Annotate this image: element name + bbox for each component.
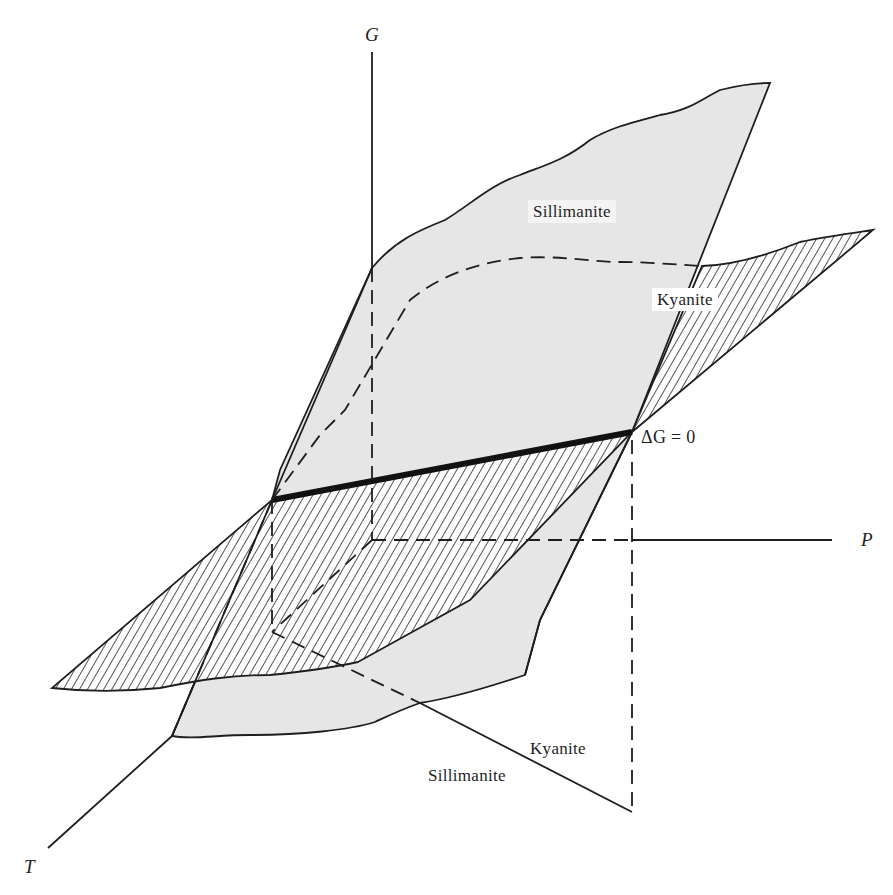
g-axis-label: G xyxy=(365,25,379,44)
equilibrium-label: ΔG = 0 xyxy=(641,428,696,446)
projection-sillimanite-label: Sillimanite xyxy=(428,767,506,784)
kyanite-surface-label: Kyanite xyxy=(652,288,718,311)
t-axis xyxy=(48,736,172,848)
t-axis-label: T xyxy=(24,857,35,876)
gibbs-energy-surface-diagram: G P T Sillimanite Kyanite ΔG = 0 Kyanite… xyxy=(0,0,893,895)
diagram-canvas xyxy=(0,0,893,895)
p-axis-label: P xyxy=(861,530,873,549)
projected-boundary-line xyxy=(420,703,632,812)
sillimanite-surface-label: Sillimanite xyxy=(528,200,616,223)
projection-kyanite-label: Kyanite xyxy=(530,740,586,757)
